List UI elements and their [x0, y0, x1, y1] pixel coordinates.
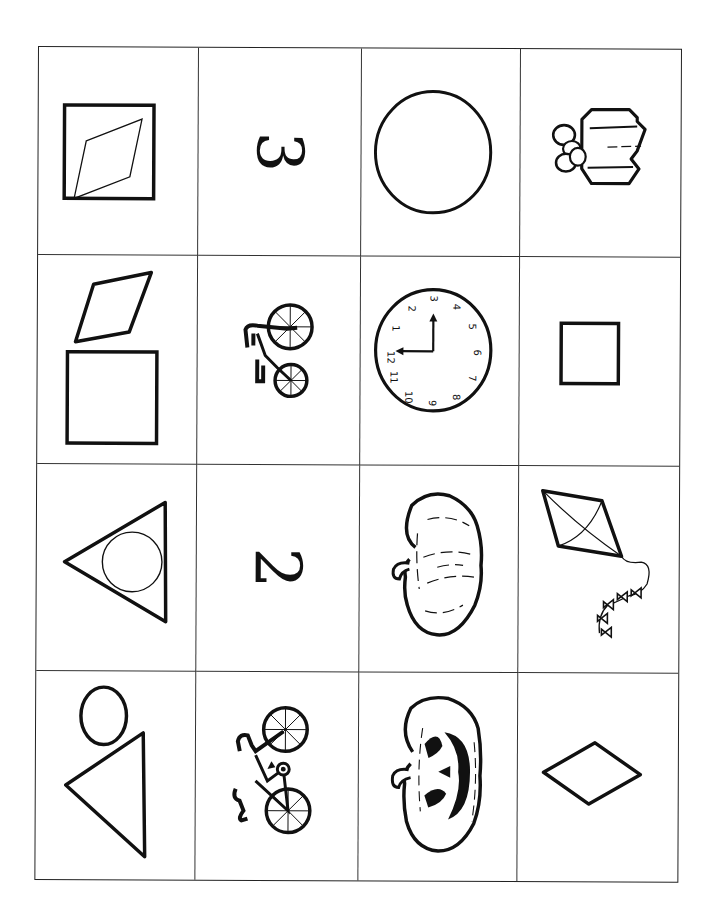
- card-number-two[interactable]: 2: [196, 465, 360, 673]
- card-grid: 3: [34, 46, 682, 883]
- clock-icon: 12 1 2 3 4 5 6 7 8 9 10 11: [360, 256, 519, 465]
- clock-number-7: 7: [467, 375, 478, 381]
- clock-number-3: 3: [428, 296, 439, 302]
- clock-number-1: 1: [391, 325, 402, 331]
- card-rhombus-in-square[interactable]: [38, 47, 199, 256]
- clock-number-10: 10: [403, 391, 414, 404]
- rhombus-in-square-icon: [38, 47, 198, 255]
- circle-icon: [361, 48, 520, 256]
- card-number-three[interactable]: 3: [198, 48, 362, 257]
- bicycle-icon: [197, 256, 360, 465]
- card-circle[interactable]: [361, 48, 521, 257]
- circle-and-triangle-icon: [35, 671, 195, 880]
- circle-in-triangle-icon: [36, 464, 196, 671]
- card-rhombus-and-square[interactable]: [37, 255, 198, 465]
- card-diamond[interactable]: [517, 673, 678, 882]
- clock-number-6: 6: [472, 349, 483, 355]
- card-jack-o-lantern[interactable]: [358, 672, 518, 881]
- card-clock[interactable]: 12 1 2 3 4 5 6 7 8 9 10 11: [360, 256, 520, 466]
- clock-number-4: 4: [451, 304, 462, 310]
- card-bicycle[interactable]: [195, 672, 359, 881]
- number-two-glyph: 2: [246, 548, 310, 589]
- kite-icon: [518, 466, 679, 673]
- clock-number-8: 8: [451, 394, 462, 400]
- card-small-bicycle[interactable]: [197, 256, 361, 466]
- rhombus-and-square-icon: [37, 255, 197, 464]
- card-circle-in-triangle[interactable]: [36, 464, 197, 672]
- clock-number-12: 12: [385, 351, 396, 364]
- pumpkin-icon: [359, 465, 518, 672]
- diamond-icon: [517, 673, 678, 882]
- square-icon: [519, 257, 680, 466]
- card-small-square[interactable]: [519, 257, 680, 467]
- card-circle-and-triangle[interactable]: [35, 671, 196, 880]
- clock-number-9: 9: [427, 400, 438, 406]
- clock-number-2: 2: [407, 305, 418, 311]
- card-gift-box[interactable]: [520, 49, 681, 258]
- clock-number-5: 5: [467, 324, 478, 330]
- jack-o-lantern-icon: [358, 672, 517, 881]
- card-kite[interactable]: [518, 466, 679, 674]
- number-three-glyph: 3: [247, 131, 311, 172]
- clock-number-11: 11: [388, 371, 399, 384]
- card-pumpkin[interactable]: [359, 465, 519, 673]
- gift-icon: [520, 49, 681, 257]
- bicycle-large-icon: [195, 672, 358, 881]
